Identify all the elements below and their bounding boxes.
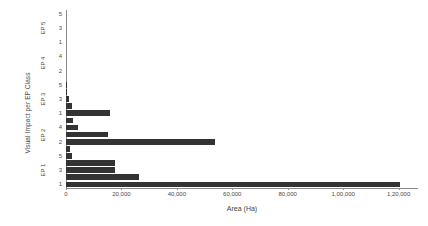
x-tick-mark-3	[232, 188, 233, 190]
chart-figure: Visual Impact per EP Class EP 5EP 4EP 3E…	[0, 0, 428, 226]
y-tick-ep-5-3: 3	[50, 24, 62, 32]
x-tick-label-6: 1,20,000	[377, 191, 421, 197]
x-tick-mark-1	[121, 188, 122, 190]
bar-ep-1-level-5	[66, 153, 72, 159]
x-tick-label-1: 20,000	[99, 191, 143, 197]
x-tick-label-4: 80,000	[266, 191, 310, 197]
y-tick-ep-4-2: 2	[50, 67, 62, 75]
x-tick-mark-4	[288, 188, 289, 190]
y-tick-ep-1-3: 3	[50, 166, 62, 174]
y-tick-ep-2-2: 2	[50, 138, 62, 146]
y-tick-ep-1-1: 1	[50, 180, 62, 188]
x-axis-title: Area (Ha)	[66, 205, 418, 212]
bar-ep-3-level-4	[66, 89, 67, 95]
bar-ep-3-level-1	[66, 110, 110, 116]
bar-ep-3-level-3	[66, 96, 69, 102]
x-tick-label-5: 1,00,000	[321, 191, 365, 197]
x-tick-mark-6	[399, 188, 400, 190]
bar-ep-3-level-5	[66, 82, 67, 88]
y-axis-group-label-ep-2: EP 2	[38, 118, 48, 152]
bar-ep-3-level-2	[66, 103, 72, 109]
y-tick-ep-5-5: 5	[50, 10, 62, 18]
x-tick-label-0: 0	[44, 191, 88, 197]
bar-ep-2-level-3	[66, 132, 108, 138]
bar-ep-1-level-4	[66, 160, 115, 166]
y-tick-ep-2-4: 4	[50, 123, 62, 131]
x-tick-mark-2	[177, 188, 178, 190]
bar-ep-2-level-4	[66, 125, 78, 131]
bar-ep-2-level-5	[66, 118, 73, 124]
x-tick-mark-0	[66, 188, 67, 190]
y-axis-group-label-ep-5: EP 5	[38, 11, 48, 45]
bar-ep-2-level-1	[66, 146, 70, 152]
y-tick-ep-5-1: 1	[50, 38, 62, 46]
x-tick-mark-5	[343, 188, 344, 190]
y-axis-title: Visual Impact per EP Class	[18, 0, 36, 226]
plot-area	[66, 10, 424, 188]
bar-ep-1-level-3	[66, 167, 115, 173]
y-axis-group-label-ep-1: EP 1	[38, 153, 48, 187]
x-axis-line	[66, 188, 418, 189]
x-tick-label-2: 40,000	[155, 191, 199, 197]
y-tick-ep-3-3: 3	[50, 95, 62, 103]
x-tick-label-3: 60,000	[210, 191, 254, 197]
y-tick-ep-1-5: 5	[50, 152, 62, 160]
y-axis-group-label-ep-3: EP 3	[38, 82, 48, 116]
y-tick-ep-4-4: 4	[50, 52, 62, 60]
bar-ep-1-level-2	[66, 174, 139, 180]
y-axis-group-label-ep-4: EP 4	[38, 46, 48, 80]
bar-ep-2-level-2	[66, 139, 215, 145]
y-tick-ep-3-5: 5	[50, 81, 62, 89]
bar-ep-1-level-1	[66, 182, 400, 188]
y-tick-ep-3-1: 1	[50, 109, 62, 117]
